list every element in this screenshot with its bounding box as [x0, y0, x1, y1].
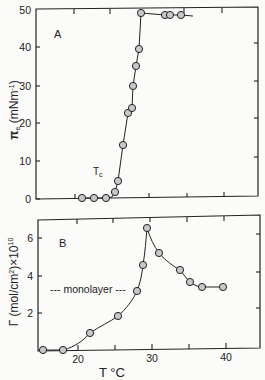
panel-b: 2 4 6 20 30 40 B --- monolayer --- T °C … [7, 215, 260, 380]
y-tick-label: 30 [19, 80, 31, 92]
panel-a: 0 10 20 30 40 50 A Tc πe (mNm-1) [7, 4, 258, 205]
y-tick-label: 10 [19, 155, 31, 167]
y-tick-label: 4 [27, 270, 33, 282]
y-tick-label: 40 [19, 41, 31, 53]
x-tick-label: 20 [72, 353, 84, 365]
y-tick-label: 20 [19, 117, 31, 129]
panel-a-label: A [54, 28, 62, 40]
y-axis-label-b: Γ (mol/cm2)×1010 [7, 238, 21, 327]
x-tick-label: 30 [146, 352, 158, 364]
y-tick-label: 2 [27, 307, 33, 319]
y-tick-label: 50 [19, 4, 31, 16]
y-tick-label: 0 [25, 193, 31, 205]
tc-label: Tc [93, 166, 103, 178]
y-tick-label: 6 [27, 232, 33, 244]
panel-b-label: B [59, 237, 66, 249]
x-tick-label: 40 [220, 351, 232, 363]
figure: 0 10 20 30 40 50 A Tc πe (mNm-1) [0, 0, 265, 380]
x-axis-label: T °C [99, 365, 125, 380]
monolayer-annotation: --- monolayer --- [50, 283, 126, 295]
